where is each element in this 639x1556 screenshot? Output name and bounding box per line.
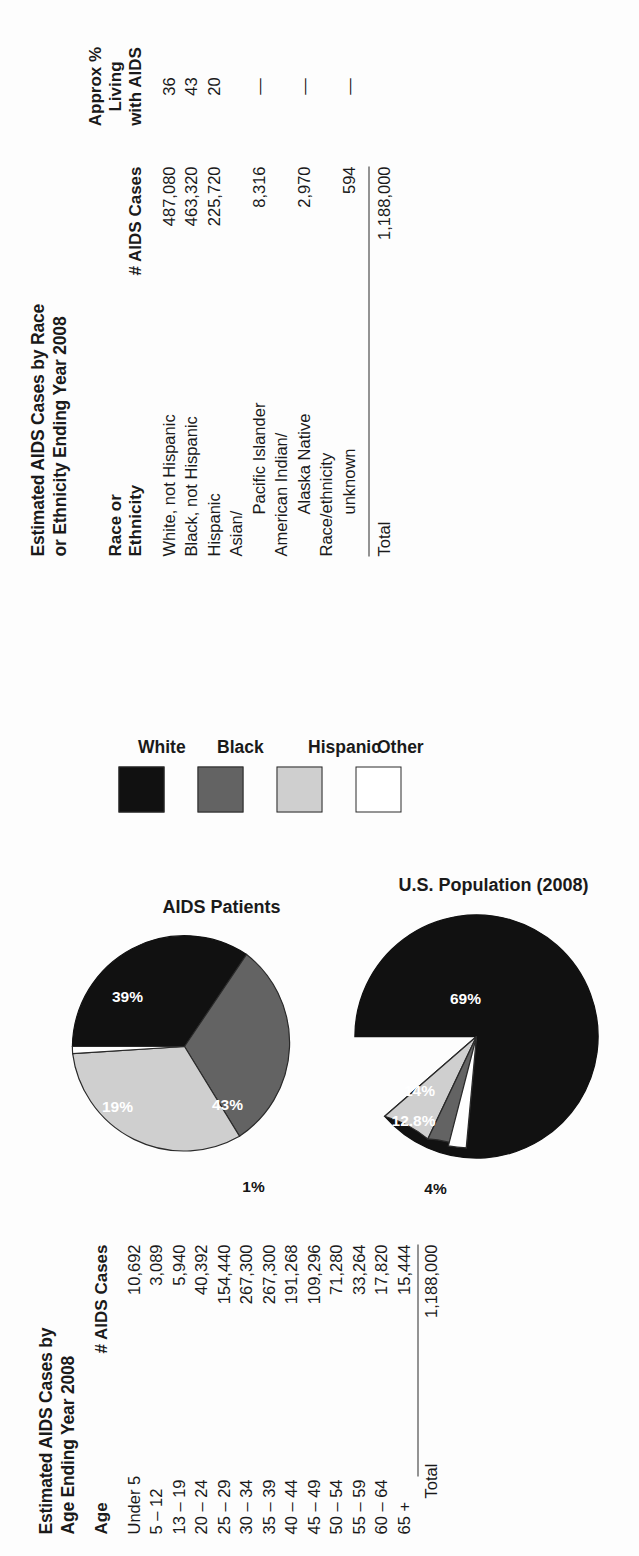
table-row: 40 – 44: [281, 1416, 300, 1534]
table-row: Race/ethnicity: [316, 338, 335, 556]
table-row: 20 – 24: [191, 1416, 210, 1534]
race-header-line2: Ethnicity: [125, 338, 145, 556]
table-row: Alaska Native: [294, 338, 313, 556]
spacer: [114, 1416, 120, 1534]
table-row: 267,300: [236, 1244, 255, 1416]
table-row: unknown: [339, 338, 358, 556]
legend-item-white: White: [118, 680, 164, 812]
table-row: 154,440: [214, 1244, 233, 1416]
table-row: 8,316: [249, 166, 268, 324]
table-row: American Indian/: [271, 338, 290, 556]
age-table-total-row: Total 1,188,000: [417, 1204, 440, 1534]
legend: White Black Hispanic Other: [118, 680, 434, 812]
age-table-total-label: Total: [421, 1416, 440, 1534]
pct-header-line2: Living: [105, 20, 125, 152]
spacer: [114, 1244, 120, 1416]
table-row: 45 – 49: [304, 1416, 323, 1534]
table-row: 15,444: [394, 1244, 413, 1416]
table-row: White, not Hispanic: [159, 338, 178, 556]
age-table-total-value: 1,188,000: [421, 1244, 440, 1416]
table-row: 463,320: [181, 166, 200, 324]
race-table-title: Estimated AIDS Cases by Race or Ethnicit…: [26, 20, 71, 556]
pie-us-population-graphic: [348, 908, 604, 1164]
age-table-title: Estimated AIDS Cases by Age Ending Year …: [34, 1204, 79, 1534]
pie-aids-patients-svg: [66, 928, 302, 1164]
race-table-title-line1: Estimated AIDS Cases by Race: [26, 20, 48, 556]
table-row: 5,940: [169, 1244, 188, 1416]
pct-header-line3: with AIDS: [125, 20, 145, 152]
pie-chart-us-population: 69% 14% 12.8% 4% U.S. Population (2008): [348, 908, 604, 1164]
race-table-total-row: Total 1,188,000: [368, 20, 393, 556]
race-table-header-cases: # AIDS Cases: [125, 166, 145, 324]
race-table-title-line2: or Ethnicity Ending Year 2008: [48, 20, 70, 556]
race-table-total-value: 1,188,000: [374, 166, 393, 324]
age-table-title-line2: Age Ending Year 2008: [56, 1204, 78, 1534]
race-table-total-rule: [368, 166, 369, 556]
race-table: Estimated AIDS Cases by Race or Ethnicit…: [26, 20, 393, 556]
race-table-grid: Race or Ethnicity # AIDS Cases Approx % …: [85, 20, 358, 556]
table-row: 43: [181, 20, 200, 152]
legend-item-black: Black: [197, 680, 243, 812]
table-row: 40,392: [191, 1244, 210, 1416]
scanned-page: Estimated AIDS Cases by Age Ending Year …: [0, 0, 639, 1556]
age-table-grid: Age # AIDS Cases Under 5 10,692 5 – 12 3…: [91, 1204, 413, 1534]
race-table-header-race: Race or Ethnicity: [105, 338, 145, 556]
pie-label-other: 1%: [242, 1178, 264, 1196]
pie-label-black: 12.8%: [391, 1111, 435, 1129]
age-table-header-age: Age: [91, 1416, 111, 1534]
legend-swatch-other: [355, 766, 401, 812]
legend-label-other: Other: [376, 737, 423, 758]
pie-label-black: 39%: [111, 987, 142, 1005]
table-row: 5 – 12: [146, 1416, 165, 1534]
spacer: [148, 338, 155, 556]
table-row: 267,300: [259, 1244, 278, 1416]
table-row: Hispanic: [204, 338, 223, 556]
table-row: 20: [204, 20, 223, 152]
legend-item-hispanic: Hispanic: [276, 680, 322, 812]
pie-us-population-svg: [348, 908, 604, 1164]
spacer: [148, 166, 155, 324]
age-table-header-cases: # AIDS Cases: [91, 1244, 111, 1416]
race-table-header-pct: Approx % Living with AIDS: [85, 20, 145, 152]
table-row: 225,720: [204, 166, 223, 324]
legend-label-black: Black: [216, 737, 263, 758]
pie-label-white: 69%: [449, 989, 480, 1007]
table-row: 487,080: [159, 166, 178, 324]
pie-caption-us-population: U.S. Population (2008): [398, 874, 588, 895]
table-row: —: [339, 20, 358, 152]
legend-label-white: White: [137, 737, 185, 758]
table-row: 25 – 29: [214, 1416, 233, 1534]
table-row: —: [249, 20, 268, 152]
pie-chart-aids-patients: 43% 39% 19% 1% AIDS Patients: [66, 928, 302, 1164]
table-row: 109,296: [304, 1244, 323, 1416]
table-row: 3,089: [146, 1244, 165, 1416]
table-row: 50 – 54: [326, 1416, 345, 1534]
pie-caption-aids-patients: AIDS Patients: [162, 896, 280, 917]
table-row: 30 – 34: [236, 1416, 255, 1534]
table-row: Under 5: [124, 1416, 143, 1534]
table-row: 55 – 59: [349, 1416, 368, 1534]
pie-label-white: 43%: [211, 1095, 242, 1113]
legend-swatch-black: [197, 766, 243, 812]
age-table-total-rule: [417, 1244, 418, 1476]
scanned-page-frame: Estimated AIDS Cases by Age Ending Year …: [0, 0, 639, 1556]
table-row: Asian/: [226, 338, 245, 556]
legend-swatch-hispanic: [276, 766, 322, 812]
legend-label-hispanic: Hispanic: [307, 737, 380, 758]
pie-label-hispanic: 19%: [101, 1097, 132, 1115]
table-row: 10,692: [124, 1244, 143, 1416]
pie-label-other: 4%: [424, 1180, 446, 1198]
table-row: 13 – 19: [169, 1416, 188, 1534]
pie-label-hispanic: 14%: [403, 1081, 434, 1099]
table-row: 33,264: [349, 1244, 368, 1416]
table-row: 60 – 64: [371, 1416, 390, 1534]
table-row: Black, not Hispanic: [181, 338, 200, 556]
age-table: Estimated AIDS Cases by Age Ending Year …: [34, 1204, 440, 1534]
table-row: Pacific Islander: [249, 338, 268, 556]
age-table-title-line1: Estimated AIDS Cases by: [34, 1204, 56, 1534]
table-row: 2,970: [294, 166, 313, 324]
age-table-total-block: Total 1,188,000: [417, 1204, 440, 1534]
pct-header-line1: Approx %: [85, 20, 105, 152]
spacer: [148, 20, 155, 152]
table-row: 36: [159, 20, 178, 152]
